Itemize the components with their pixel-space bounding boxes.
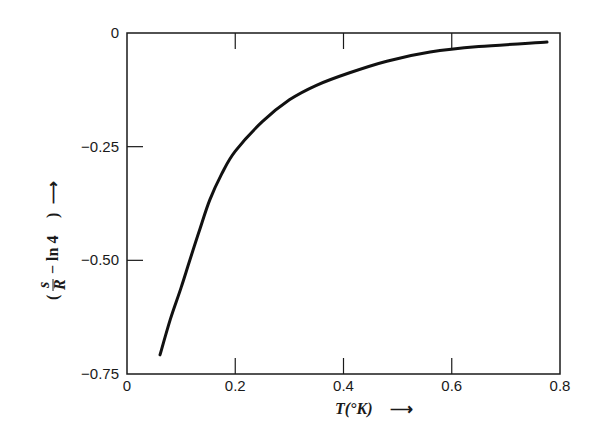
data-curve [160,42,547,355]
y-axis-paren-open: ( [44,295,62,300]
ticks [127,33,452,374]
y-axis-paren-close: ) [44,213,62,218]
x-tick-label: 0.8 [550,377,571,394]
entropy-chart: 00.20.40.60.80−0.25−0.50−0.75 T(°K) ⟶ ( … [0,0,603,443]
x-tick-label: 0.6 [441,377,462,394]
y-axis-label: ( s R − ln 4 ) ⟶ [35,181,68,300]
y-tick-label: −0.75 [81,365,119,382]
x-axis-arrow-icon: ⟶ [390,400,413,417]
y-axis-fraction-numerator: s [35,282,52,289]
x-tick-label: 0.4 [333,377,354,394]
x-tick-label: 0 [123,377,131,394]
y-tick-label: 0 [111,24,119,41]
x-axis-label: T(°K) ⟶ [335,400,413,418]
y-axis-fraction-denominator: R [51,279,68,291]
y-tick-label: −0.25 [81,138,119,155]
y-axis-title: − ln 4 [44,236,61,274]
x-axis-title: T(°K) [335,400,373,418]
y-tick-label: −0.50 [81,251,119,268]
plot-frame [127,33,560,374]
x-tick-label: 0.2 [225,377,246,394]
y-axis-arrow-icon: ⟶ [44,181,61,204]
tick-labels: 00.20.40.60.80−0.25−0.50−0.75 [81,24,570,394]
